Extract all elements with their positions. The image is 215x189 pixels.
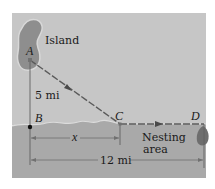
point-b-label: B [35, 111, 43, 125]
nesting-label-line2: area [143, 143, 168, 156]
distance-bd-label: 12 mi [100, 154, 132, 167]
land-region [12, 120, 206, 178]
point-c-label: C [115, 109, 124, 123]
point-a-marker [28, 58, 32, 62]
point-a-label: A [25, 44, 34, 58]
point-b-marker [28, 125, 32, 129]
island-label: Island [45, 34, 79, 47]
variable-x-label: x [71, 130, 78, 144]
island-nesting-diagram: Island A 5 mi B C D x Nesting area 12 mi [0, 0, 215, 189]
point-d-label: D [190, 109, 200, 123]
distance-ab-label: 5 mi [35, 89, 60, 102]
